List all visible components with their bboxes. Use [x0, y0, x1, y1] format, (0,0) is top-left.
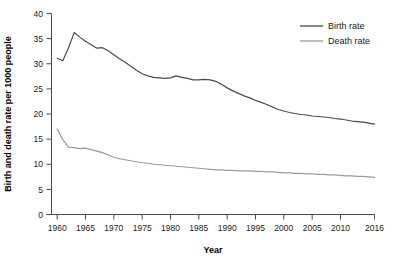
series-line-death-rate	[57, 129, 374, 177]
x-tick-label: 1995	[246, 223, 265, 233]
x-axis-ticks: 1960196519701975198019851990199520002005…	[48, 215, 385, 234]
x-tick-label: 2000	[274, 223, 293, 233]
y-axis-title: Birth and death rate per 1000 people	[3, 36, 13, 192]
chart-canvas: 0510152025303540 19601965197019751980198…	[0, 0, 394, 265]
y-tick-label: 25	[34, 84, 44, 94]
legend-label-death-rate: Death rate	[328, 36, 370, 46]
y-tick-label: 20	[34, 109, 44, 119]
series-lines	[57, 33, 374, 178]
y-tick-label: 15	[34, 134, 44, 144]
legend-label-birth-rate: Birth rate	[328, 21, 365, 31]
x-tick-label: 1990	[218, 223, 237, 233]
x-tick-label: 1965	[76, 223, 95, 233]
axes	[52, 14, 375, 215]
y-tick-label: 0	[38, 210, 43, 220]
legend: Birth rateDeath rate	[300, 21, 370, 46]
series-line-birth-rate	[57, 33, 374, 124]
x-tick-label: 2010	[331, 223, 350, 233]
x-axis-title: Year	[203, 245, 223, 255]
x-tick-label: 2005	[303, 223, 322, 233]
x-tick-label: 1960	[48, 223, 67, 233]
y-axis-ticks: 0510152025303540	[34, 9, 52, 220]
y-tick-label: 5	[38, 185, 43, 195]
x-tick-label: 1975	[133, 223, 152, 233]
y-tick-label: 10	[34, 159, 44, 169]
line-chart: 0510152025303540 19601965197019751980198…	[0, 0, 394, 265]
x-tick-label: 1980	[161, 223, 180, 233]
y-tick-label: 30	[34, 59, 44, 69]
y-tick-label: 35	[34, 34, 44, 44]
x-tick-label: 1985	[189, 223, 208, 233]
x-tick-label: 2016	[365, 223, 384, 233]
y-tick-label: 40	[34, 9, 44, 19]
x-tick-label: 1970	[104, 223, 123, 233]
